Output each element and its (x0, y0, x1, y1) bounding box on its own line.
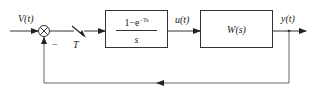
zoh-denominator: s (106, 35, 167, 45)
zero-order-hold-block: 1−e−Ts s (105, 10, 168, 48)
sampler-switch-icon (72, 26, 86, 38)
input-signal-label: V(t) (18, 14, 34, 24)
feedback-sign-label: − (52, 40, 58, 50)
fraction-bar (116, 30, 157, 31)
plant-transfer-function: W(s) (201, 11, 272, 47)
block-diagram: V(t) − T u(t) y(t) 1−e−Ts s W(s) (0, 0, 314, 91)
output-signal-label: y(t) (281, 14, 295, 24)
feedback-arrow-up-icon (41, 37, 47, 45)
control-signal-label: u(t) (175, 15, 189, 25)
sampling-period-label: T (73, 40, 79, 50)
summing-junction-icon (39, 26, 50, 37)
zoh-numerator: 1−e−Ts (106, 17, 167, 28)
plant-block: W(s) (200, 10, 273, 48)
feedback-arrow-left-icon (156, 80, 164, 86)
